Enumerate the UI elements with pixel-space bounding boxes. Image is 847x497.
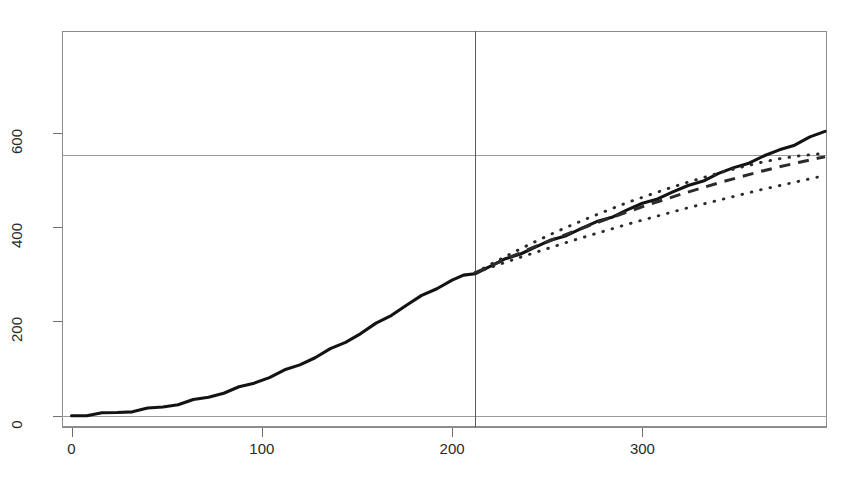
series-observed-cumulative <box>72 131 826 415</box>
y-tick <box>53 416 62 417</box>
x-tick <box>262 428 263 437</box>
series-forecast-upper-bound <box>475 154 825 273</box>
y-tick-label: 600 <box>8 129 25 154</box>
x-axis-line <box>62 427 827 428</box>
y-tick <box>53 321 62 322</box>
y-tick-label: 400 <box>8 223 25 248</box>
chart-page: 0100200300 0200400600 <box>0 0 847 497</box>
y-tick <box>53 227 62 228</box>
x-tick-label: 200 <box>440 440 465 457</box>
series-layer <box>62 31 827 427</box>
y-tick-label: 0 <box>8 420 25 428</box>
x-tick-label: 300 <box>630 440 655 457</box>
x-tick-label: 100 <box>249 440 274 457</box>
chart-title-clipped <box>0 0 847 9</box>
plot-area <box>62 31 827 427</box>
y-tick-label: 200 <box>8 317 25 342</box>
series-forecast-lower-bound <box>475 175 825 273</box>
x-tick-label: 0 <box>67 440 75 457</box>
x-tick <box>452 428 453 437</box>
series-forecast-mean <box>475 157 825 273</box>
x-tick <box>642 428 643 437</box>
x-tick <box>72 428 73 437</box>
y-tick <box>53 133 62 134</box>
